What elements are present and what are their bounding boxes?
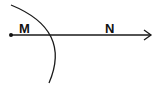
label-n: N — [105, 21, 114, 36]
arc — [11, 5, 55, 83]
geometry-diagram: M N — [0, 0, 156, 86]
label-m: M — [19, 21, 30, 36]
start-point-dot — [9, 33, 13, 37]
